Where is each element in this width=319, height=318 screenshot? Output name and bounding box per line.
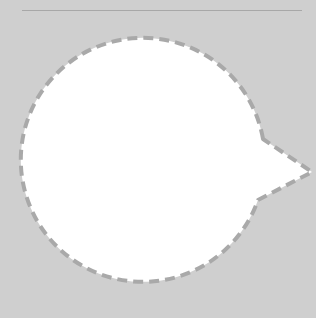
speech-bubble-shape[interactable]: [0, 0, 319, 318]
speech-bubble-outline: [21, 38, 312, 282]
canvas-background: [0, 0, 316, 318]
